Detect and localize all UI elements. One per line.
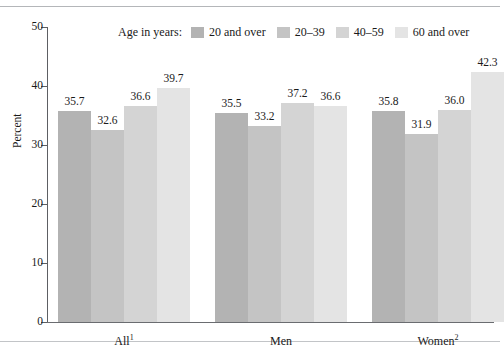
- x-axis-label-footnote: 2: [455, 333, 459, 342]
- bar: 37.2: [281, 103, 314, 322]
- bar-value-label: 42.3: [477, 55, 497, 69]
- bars-row: 35.831.936.042.3: [372, 26, 504, 322]
- plot-area: Percent 01020304050 35.732.636.639.7All1…: [47, 20, 494, 328]
- bar-value-label: 36.6: [130, 89, 150, 103]
- bar: 35.8: [372, 111, 405, 322]
- x-axis-line: [47, 322, 494, 323]
- bar: 35.5: [215, 113, 248, 322]
- bar: 36.6: [124, 106, 157, 322]
- bar-value-label: 32.6: [97, 113, 117, 127]
- bar-value-label: 33.2: [254, 109, 274, 123]
- y-tick-label: 30: [32, 137, 44, 152]
- bar: 33.2: [248, 126, 281, 322]
- bar-value-label: 36.6: [320, 89, 340, 103]
- bar-value-label: 35.7: [64, 94, 84, 108]
- bar-value-label: 39.7: [163, 71, 183, 85]
- bar-value-label: 31.9: [411, 117, 431, 131]
- bar-value-label: 37.2: [287, 86, 307, 100]
- y-axis-title: Percent: [11, 114, 23, 148]
- bar-value-label: 35.8: [378, 94, 398, 108]
- bar-group-men: 35.533.237.236.6Men: [215, 26, 347, 322]
- x-axis-label-all: All1: [114, 334, 133, 346]
- bar: 35.7: [58, 111, 91, 322]
- bar: 39.7: [157, 88, 190, 322]
- x-axis-label-men: Men: [270, 334, 292, 346]
- bar-value-label: 35.5: [221, 96, 241, 110]
- y-axis-line: [47, 27, 48, 322]
- y-tick-label: 20: [32, 196, 44, 211]
- x-axis-label-women: Women2: [417, 334, 458, 346]
- bars-row: 35.533.237.236.6: [215, 26, 347, 322]
- page-rule-top: [0, 6, 500, 7]
- bar-group-all: 35.732.636.639.7All1: [58, 26, 190, 322]
- y-tick-label: 50: [32, 19, 44, 34]
- bar-group-women: 35.831.936.042.3Women2: [372, 26, 504, 322]
- bar-value-label: 36.0: [444, 93, 464, 107]
- bar: 36.0: [438, 110, 471, 322]
- x-axis-label-footnote: 1: [130, 333, 134, 342]
- bars-row: 35.732.636.639.7: [58, 26, 190, 322]
- y-tick-label: 40: [32, 78, 44, 93]
- y-tick-label: 10: [32, 255, 44, 270]
- bar: 31.9: [405, 134, 438, 322]
- bar: 36.6: [314, 106, 347, 322]
- y-tick-label: 0: [37, 314, 43, 329]
- bar: 42.3: [471, 72, 504, 322]
- bar: 32.6: [91, 130, 124, 322]
